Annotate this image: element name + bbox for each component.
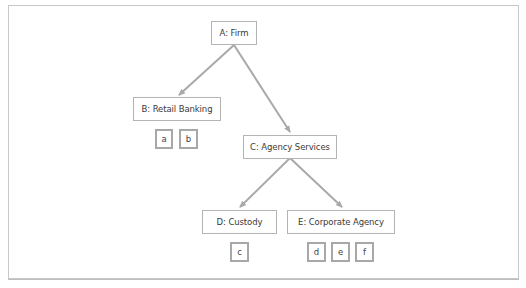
- leaf-d: d: [307, 242, 326, 262]
- node-d-label: D: Custody: [217, 217, 263, 227]
- node-a-firm: A: Firm: [211, 21, 257, 45]
- node-e-corporate-agency: E: Corporate Agency: [287, 210, 395, 234]
- edge-a-to-c: [234, 45, 290, 132]
- leaf-a-label: a: [161, 134, 166, 144]
- leaf-b: b: [179, 129, 198, 149]
- node-b-retail-banking: B: Retail Banking: [133, 97, 221, 121]
- node-c-label: C: Agency Services: [250, 142, 330, 152]
- node-a-label: A: Firm: [220, 28, 249, 38]
- edge-a-to-b: [179, 45, 234, 95]
- leaf-c: c: [230, 242, 249, 262]
- node-e-label: E: Corporate Agency: [298, 217, 384, 227]
- leaf-f-label: f: [363, 247, 366, 257]
- node-b-label: B: Retail Banking: [142, 104, 213, 114]
- leaf-c-label: c: [237, 247, 242, 257]
- leaf-d-label: d: [314, 247, 319, 257]
- leaf-b-label: b: [186, 134, 191, 144]
- edge-c-to-e: [290, 158, 342, 207]
- node-c-agency-services: C: Agency Services: [243, 135, 337, 159]
- edge-c-to-d: [240, 158, 290, 207]
- leaf-e: e: [331, 242, 350, 262]
- leaf-e-label: e: [338, 247, 343, 257]
- leaf-f: f: [355, 242, 374, 262]
- node-d-custody: D: Custody: [202, 210, 277, 234]
- leaf-a: a: [155, 129, 173, 149]
